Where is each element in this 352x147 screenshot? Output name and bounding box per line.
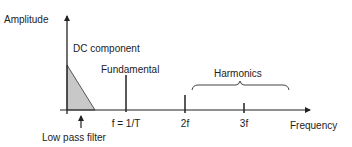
tick-label-2f: 2f	[181, 118, 190, 129]
low-pass-filter-region	[67, 65, 95, 110]
low-pass-filter-label: Low pass filter	[42, 132, 107, 143]
y-axis-label: Amplitude	[4, 14, 49, 25]
fundamental-label: Fundamental	[101, 64, 159, 75]
tick-label-fundamental: f = 1/T	[112, 118, 141, 129]
harmonics-brace	[192, 81, 289, 90]
x-axis-label: Frequency	[290, 120, 337, 131]
dc-component-label: DC component	[73, 43, 140, 54]
tick-label-3f: 3f	[240, 118, 249, 129]
frequency-spectrum-diagram: Amplitude Frequency DC component Fundame…	[0, 0, 352, 147]
harmonics-label: Harmonics	[214, 68, 262, 79]
